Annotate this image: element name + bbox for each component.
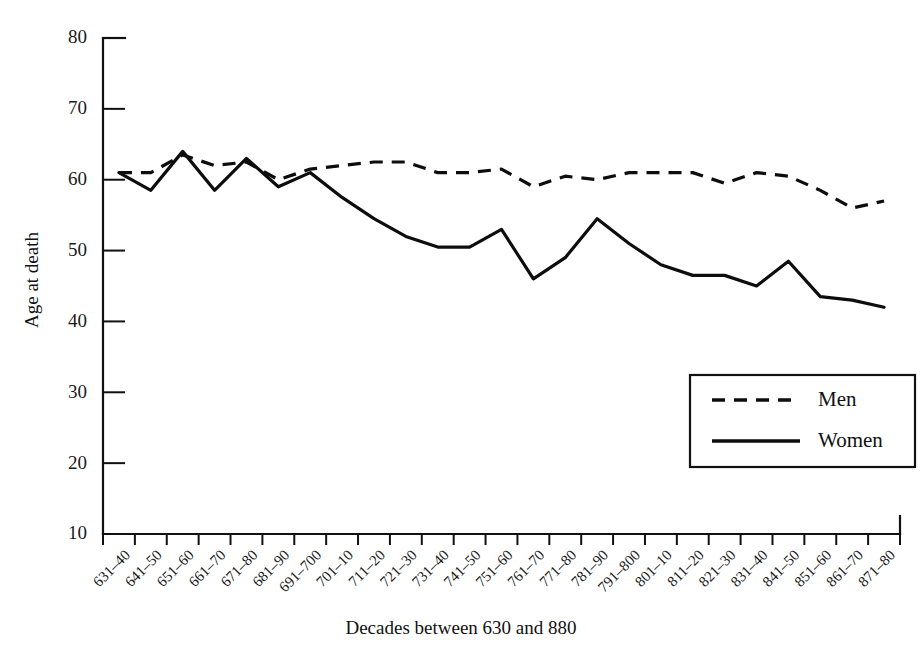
chart-series xyxy=(119,151,884,307)
legend-label-women: Women xyxy=(818,428,883,452)
y-axis-tick-label: 60 xyxy=(68,168,87,189)
legend-label-men: Men xyxy=(818,387,857,411)
y-axis-ticks xyxy=(103,38,125,463)
legend-box xyxy=(690,375,915,467)
y-axis-title: Age at death xyxy=(21,231,42,328)
y-axis-tick-label: 10 xyxy=(68,522,87,543)
chart-svg: 1020304050607080 631–40641–50651–60661–7… xyxy=(0,0,923,651)
y-axis-tick-label: 40 xyxy=(68,310,87,331)
series-line-women xyxy=(119,151,884,307)
x-axis-title: Decades between 630 and 880 xyxy=(345,617,576,638)
x-axis-tick-label: 871–80 xyxy=(855,547,898,590)
chart-legend: Men Women xyxy=(690,375,915,467)
series-line-men xyxy=(119,155,884,208)
y-axis-tick-label: 20 xyxy=(68,452,87,473)
y-axis-tick-label: 30 xyxy=(68,381,87,402)
y-axis-tick-labels: 1020304050607080 xyxy=(68,26,87,543)
chart-figure: 1020304050607080 631–40641–50651–60661–7… xyxy=(0,0,923,651)
y-axis-tick-label: 80 xyxy=(68,26,87,47)
x-axis-tick-labels: 631–40641–50651–60661–70671–80681–90691–… xyxy=(90,547,898,595)
y-axis-tick-label: 70 xyxy=(68,97,87,118)
y-axis-tick-label: 50 xyxy=(68,239,87,260)
x-axis-ticks xyxy=(103,534,900,545)
